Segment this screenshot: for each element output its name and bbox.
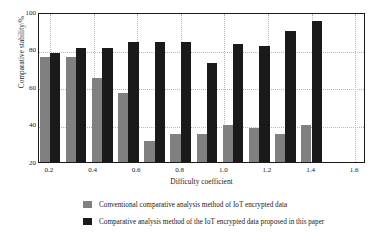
bar: [118, 93, 128, 162]
x-tick-label: 1.0: [208, 166, 238, 174]
bar: [40, 57, 50, 162]
legend-label: Conventional comparative analysis method…: [99, 201, 287, 209]
bar: [312, 21, 322, 162]
bar: [223, 125, 233, 163]
legend-label: Comparative analysis method of the IoT e…: [99, 218, 324, 226]
x-tick-label: 0.4: [78, 166, 108, 174]
x-tick-label: 0.6: [121, 166, 151, 174]
plot-area: [38, 13, 365, 163]
y-tick-label: 60: [16, 85, 36, 92]
bar: [233, 44, 243, 162]
bar: [197, 134, 207, 162]
bar: [155, 42, 165, 162]
bar: [92, 78, 102, 162]
bar: [128, 42, 138, 162]
bar: [259, 46, 269, 162]
legend-swatch: [83, 218, 92, 225]
y-tick-label: 80: [16, 47, 36, 54]
bar: [207, 63, 217, 162]
x-tick-label: 1.6: [339, 166, 369, 174]
y-tick-label: 100: [16, 10, 36, 17]
legend-swatch: [83, 201, 92, 208]
y-tick-label: 40: [16, 122, 36, 129]
bar: [249, 128, 259, 162]
x-tick-label: 1.4: [296, 166, 326, 174]
x-tick-label: 0.8: [165, 166, 195, 174]
bar: [285, 31, 295, 162]
x-tick-label: 0.2: [34, 166, 64, 174]
bar: [144, 141, 154, 162]
bar: [275, 134, 285, 162]
bar: [76, 48, 86, 162]
bar: [170, 134, 180, 162]
bar: [181, 42, 191, 162]
bar-series-container: [39, 14, 364, 162]
x-axis-title: Difficulty coefficient: [38, 177, 365, 186]
bar: [50, 53, 60, 162]
bar: [102, 48, 112, 162]
x-tick-label: 1.2: [252, 166, 282, 174]
legend-item: Conventional comparative analysis method…: [0, 196, 373, 213]
chart-legend: Conventional comparative analysis method…: [0, 196, 373, 230]
bar-chart-figure: Comparative stability/% 20406080100 0.20…: [0, 0, 373, 242]
legend-item: Comparative analysis method of the IoT e…: [0, 213, 373, 230]
bar: [301, 125, 311, 163]
bar: [66, 57, 76, 162]
